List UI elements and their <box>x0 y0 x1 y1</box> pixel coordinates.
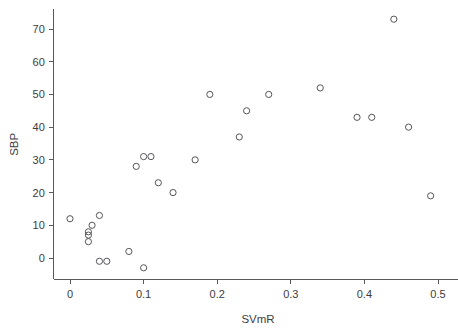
data-point <box>369 114 375 120</box>
data-point <box>141 153 147 159</box>
data-point-group <box>67 16 434 271</box>
chart-canvas: 01020304050607000.10.20.30.40.5SVmRSBP <box>0 0 458 328</box>
x-tick-label: 0.4 <box>357 288 372 300</box>
data-point <box>317 85 323 91</box>
y-tick-label: 50 <box>33 88 45 100</box>
x-tick-label: 0.5 <box>430 288 445 300</box>
data-point <box>391 16 397 22</box>
x-tick-label: 0.2 <box>210 288 225 300</box>
data-point <box>89 222 95 228</box>
data-point <box>133 163 139 169</box>
data-point <box>141 265 147 271</box>
y-tick-label: 10 <box>33 219 45 231</box>
data-point <box>155 180 161 186</box>
data-point <box>266 91 272 97</box>
x-tick-label: 0.3 <box>283 288 298 300</box>
data-point <box>170 189 176 195</box>
x-tick-label: 0 <box>67 288 73 300</box>
data-point <box>96 212 102 218</box>
data-point <box>96 258 102 264</box>
y-tick-label: 60 <box>33 56 45 68</box>
data-point <box>148 153 154 159</box>
data-point <box>428 193 434 199</box>
x-axis-title: SVmR <box>241 313 274 325</box>
data-point <box>405 124 411 130</box>
y-tick-label: 30 <box>33 154 45 166</box>
scatter-plot-figure: 01020304050607000.10.20.30.40.5SVmRSBP <box>0 0 458 328</box>
data-point <box>85 239 91 245</box>
y-tick-label: 20 <box>33 187 45 199</box>
data-point <box>236 134 242 140</box>
y-tick-label: 40 <box>33 121 45 133</box>
data-point <box>354 114 360 120</box>
data-point <box>207 91 213 97</box>
data-point <box>244 108 250 114</box>
data-point <box>104 258 110 264</box>
data-point <box>67 216 73 222</box>
data-point <box>192 157 198 163</box>
x-tick-label: 0.1 <box>136 288 151 300</box>
y-axis-title: SBP <box>8 132 20 155</box>
y-tick-label: 0 <box>39 252 45 264</box>
y-tick-label: 70 <box>33 23 45 35</box>
data-point <box>126 248 132 254</box>
